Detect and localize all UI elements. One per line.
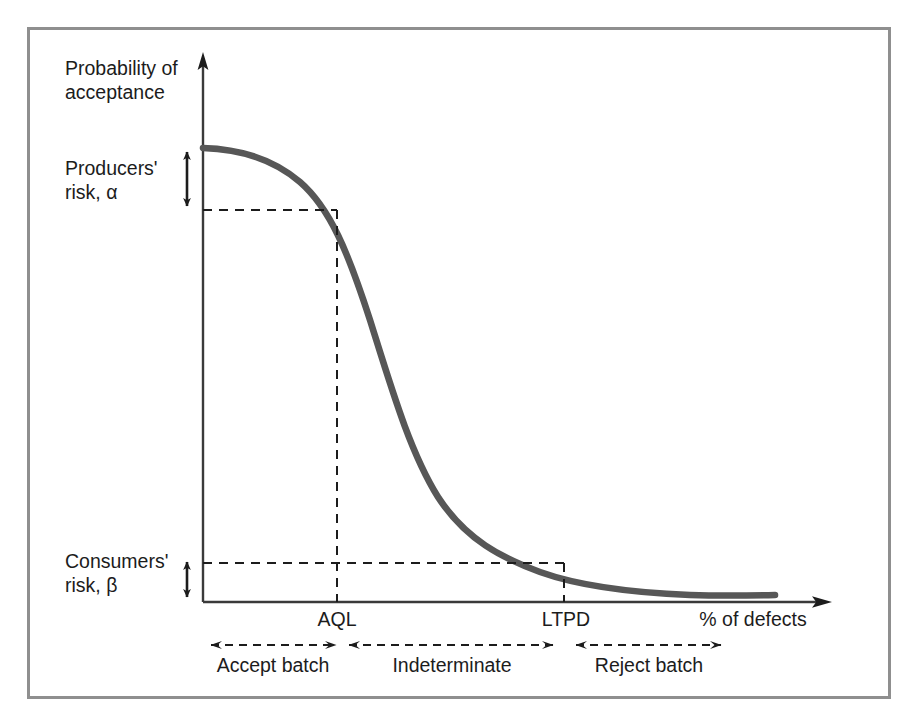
consumers-risk-label-line2: risk, β <box>65 574 117 596</box>
band-label-indeterminate: Indeterminate <box>392 654 511 676</box>
producers-risk-label-line2: risk, α <box>65 181 117 203</box>
oc-curve-figure: Probability of acceptance Producers' ris… <box>0 0 907 721</box>
x-tick-label-aql: AQL <box>317 608 356 630</box>
y-axis-label-line2: acceptance <box>65 81 165 103</box>
band-label-reject-batch: Reject batch <box>595 654 703 676</box>
producers-risk-label-line1: Producers' <box>65 157 158 179</box>
band-label-accept-batch: Accept batch <box>217 654 330 676</box>
x-tick-label-ltpd: LTPD <box>542 608 590 630</box>
y-axis-label-line1: Probability of <box>65 57 178 79</box>
oc-curve-chart: Probability of acceptance Producers' ris… <box>0 0 907 721</box>
x-axis-label: % of defects <box>699 608 807 630</box>
consumers-risk-label-line1: Consumers' <box>65 550 168 572</box>
